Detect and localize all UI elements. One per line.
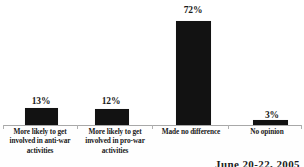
category-label-3: No opinion: [232, 127, 302, 136]
category-label-0-line-0: More likely to get: [0, 127, 80, 136]
category-label-3-line-0: No opinion: [232, 127, 302, 136]
category-axis-labels: More likely to get involved in anti-war …: [0, 127, 304, 159]
plot-area: 13% 12% 72% 3%: [0, 0, 304, 126]
category-label-0-line-1: involved in anti-war: [0, 136, 80, 145]
bar-1: [95, 109, 129, 125]
bar-value-label-3: 3%: [242, 110, 302, 120]
category-label-2: Made no difference: [153, 127, 229, 136]
bar-0: [25, 108, 58, 125]
category-label-0-line-2: activities: [0, 146, 80, 155]
chart-footnote: June 20-22, 2005: [215, 158, 300, 167]
bar-value-label-1: 12%: [81, 96, 141, 106]
category-label-0: More likely to get involved in anti-war …: [0, 127, 80, 155]
category-label-2-line-0: Made no difference: [153, 127, 229, 136]
category-label-1-line-0: More likely to get: [75, 127, 155, 136]
bar-value-label-0: 13%: [11, 96, 71, 106]
bar-value-label-2: 72%: [163, 5, 223, 15]
bar-2: [176, 21, 211, 125]
bar-chart: 13% 12% 72% 3% More likely to get involv…: [0, 0, 304, 167]
category-label-1: More likely to get involved in pro-war a…: [75, 127, 155, 155]
category-label-1-line-1: involved in pro-war: [75, 136, 155, 145]
category-label-1-line-2: activities: [75, 146, 155, 155]
